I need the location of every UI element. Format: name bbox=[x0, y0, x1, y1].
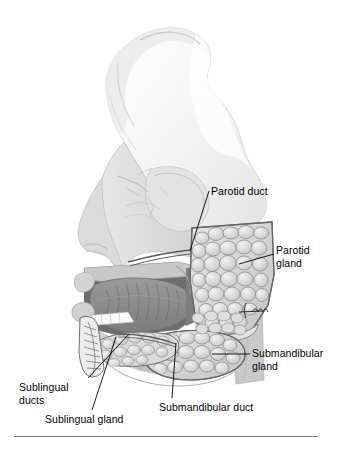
label-submandibular-duct: Submandibular duct bbox=[159, 401, 253, 414]
label-sublingual-ducts: Sublingual ducts bbox=[19, 381, 91, 406]
label-sublingual-gland: Sublingual gland bbox=[45, 413, 123, 426]
label-parotid-duct: Parotid duct bbox=[211, 185, 268, 198]
label-submandibular-gland: Submandibular gland bbox=[252, 347, 338, 372]
figure-page: Parotid duct Parotid gland Submandibular… bbox=[0, 0, 339, 451]
label-sublingual-ducts-line1: Sublingual bbox=[19, 381, 91, 394]
label-submandibular-gland-line2: gland bbox=[252, 360, 338, 373]
label-parotid-gland-line2: gland bbox=[276, 257, 336, 270]
label-parotid-gland-line1: Parotid bbox=[276, 244, 336, 257]
label-submandibular-gland-line1: Submandibular bbox=[252, 347, 338, 360]
label-parotid-gland: Parotid gland bbox=[276, 244, 336, 269]
label-sublingual-ducts-line2: ducts bbox=[19, 394, 91, 407]
bottom-divider-rule bbox=[14, 436, 318, 437]
